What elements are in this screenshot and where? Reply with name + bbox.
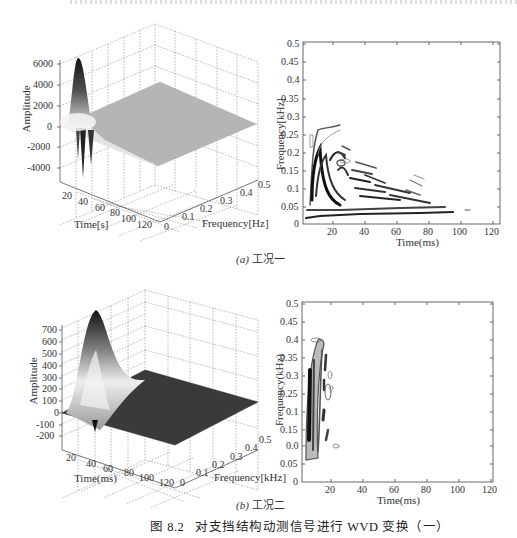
y-tick: 0.3 xyxy=(286,371,299,381)
x-tick: 120 xyxy=(482,485,497,495)
x-tick: 120 xyxy=(484,227,499,237)
y-tick: 0.45 xyxy=(280,317,298,327)
y-tick: 0.3 xyxy=(287,112,300,122)
panel-b-caption-letter: (b) xyxy=(236,499,249,511)
figure-title: 对支挡结构动测信号进行 WVD 变换（一） xyxy=(195,520,450,534)
y-tick: 0.1 xyxy=(287,184,300,194)
x-tick: 40 xyxy=(359,227,369,237)
x-axis-label: Time(ms) xyxy=(396,236,439,248)
y-tick: 0.1 xyxy=(286,407,299,417)
y-tick: 0 xyxy=(293,477,298,487)
x-tick: 100 xyxy=(452,227,467,237)
y-tick: 0.45 xyxy=(281,57,299,67)
x-tick: 100 xyxy=(450,485,465,495)
panel-b-caption-text: 工况二 xyxy=(252,499,285,511)
figure-caption: 图 8.2 对支挡结构动测信号进行 WVD 变换（一） xyxy=(150,516,450,535)
x-tick: 20 xyxy=(327,227,337,237)
x-tick: 40 xyxy=(357,485,367,495)
y-tick: 0 xyxy=(294,219,299,229)
y-tick: 0.05 xyxy=(281,202,299,212)
y-tick: 0.05 xyxy=(280,459,298,469)
y-tick: 0.2 xyxy=(287,148,300,158)
y-tick: 0.5 xyxy=(287,39,300,49)
x-tick: 20 xyxy=(325,485,335,495)
y-tick: 0.4 xyxy=(286,335,299,345)
panel-a-contour-graphic xyxy=(0,0,517,240)
y-tick: 0.5 xyxy=(286,299,299,309)
x-tick: 80 xyxy=(421,485,431,495)
y-tick: 0.4 xyxy=(287,75,300,85)
y-axis-label: Frequency[kHz] xyxy=(274,94,286,174)
panel-a-caption: (a) 工况一 xyxy=(236,250,285,266)
y-tick: 0.0 xyxy=(286,441,299,451)
panel-a-caption-text: 工况一 xyxy=(252,253,285,265)
figure-number: 图 8.2 xyxy=(150,520,184,534)
panel-a-caption-letter: (a) xyxy=(236,253,249,265)
panel-b-caption: (b) 工况二 xyxy=(236,496,285,512)
x-axis-label: Time(ms) xyxy=(377,494,420,506)
y-axis-label: Frequency(kHz) xyxy=(273,350,285,430)
panel-b-contour-graphic xyxy=(0,270,517,510)
